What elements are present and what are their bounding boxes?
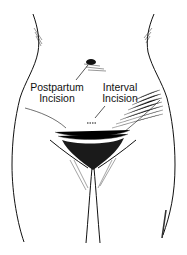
interval-leader-line [95, 106, 105, 118]
postpartum-leader-line [76, 65, 88, 80]
right-inner-thigh [94, 168, 100, 243]
pubic-region [62, 138, 124, 170]
left-body-contour [12, 14, 39, 242]
abdomen-illustration [0, 0, 187, 255]
interval-incision-label: Interval Incision [92, 82, 148, 104]
left-inner-thigh [86, 168, 92, 243]
postpartum-incision-label: Postpartum Incision [28, 82, 86, 104]
right-body-contour [147, 14, 175, 235]
artist-signature [162, 210, 166, 238]
umbilicus [86, 59, 96, 65]
